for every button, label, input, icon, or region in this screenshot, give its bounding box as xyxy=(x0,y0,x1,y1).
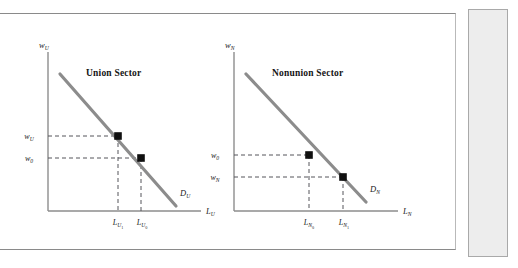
nonunion-demand-curve xyxy=(246,74,366,202)
union-wage-point xyxy=(114,132,122,140)
nonunion-y-tick-w0: w0 xyxy=(211,151,219,161)
union-x-tick-lu0: LU0 xyxy=(136,218,148,230)
nonunion-x-tick-ln0: LN0 xyxy=(303,218,314,230)
nonunion-panel-title: Nonunion Sector xyxy=(272,68,344,78)
nonunion-competitive-point xyxy=(305,151,313,159)
nonunion-sector-chart: Nonunion Sector wN LN DN w0 wN LN0 LN1 xyxy=(186,14,456,251)
nonunion-y-axis-label: wN xyxy=(225,40,235,51)
union-competitive-point xyxy=(137,154,145,162)
union-y-axis-label: wU xyxy=(39,40,50,51)
union-y-tick-wu: wU xyxy=(24,132,34,142)
side-panel xyxy=(468,9,508,257)
union-y-tick-w0: w0 xyxy=(25,154,33,164)
nonunion-wage-point xyxy=(339,173,347,181)
figure-panel: Union Sector wU LU DU wU w0 LU1 LU0 xyxy=(0,13,456,250)
nonunion-y-tick-wn: wN xyxy=(210,173,219,183)
nonunion-x-axis-label: LN xyxy=(402,206,412,217)
union-panel-title: Union Sector xyxy=(86,68,142,78)
nonunion-demand-curve-label: DN xyxy=(369,184,380,195)
nonunion-x-tick-ln1: LN1 xyxy=(338,218,349,230)
union-x-tick-lu1: LU1 xyxy=(112,218,124,230)
